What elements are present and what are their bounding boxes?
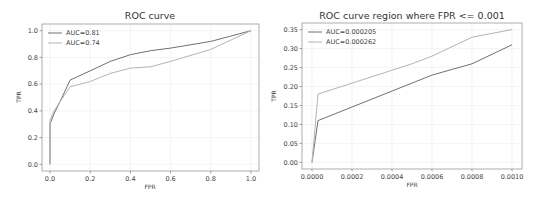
series-line [312,30,512,163]
y-tick-label: 0.20 [284,83,298,91]
x-tick-label: 0.6 [165,175,175,183]
y-tick-label: 0.00 [284,159,298,167]
y-tick-label: 0.05 [284,140,298,148]
legend-label: AUC=0.000262 [326,38,376,46]
y-tick-label: 0.25 [284,64,298,72]
x-axis-ticks: 0.00000.00020.00040.00060.00080.0010 [301,169,524,181]
y-tick-label: 0.30 [284,45,298,53]
x-tick-label: 0.0010 [501,173,524,181]
legend: AUC=0.000205AUC=0.000262 [308,28,376,46]
y-tick-label: 0.35 [284,26,298,34]
y-tick-label: 1.0 [28,27,38,35]
legend: AUC=0.81AUC=0.74 [48,29,100,47]
x-axis-ticks: 0.00.20.40.60.81.0 [45,171,256,183]
series-line [312,45,512,163]
x-tick-label: 0.0 [45,175,55,183]
x-tick-label: 0.4 [125,175,135,183]
x-tick-label: 0.2 [85,175,95,183]
chart-title: ROC curve [125,10,176,21]
y-tick-label: 0.8 [28,54,38,62]
legend-label: AUC=0.81 [66,29,100,37]
y-tick-label: 0.0 [28,161,38,169]
y-axis-ticks: 0.000.050.100.150.200.250.300.35 [284,26,302,167]
y-axis-ticks: 0.00.20.40.60.81.0 [28,27,42,169]
x-axis-label: FPR [406,181,417,188]
roc-curve-zoomed-chart: ROC curve region where FPR <= 0.001 0.00… [270,10,523,188]
y-tick-label: 0.4 [28,107,38,115]
x-tick-label: 1.0 [246,175,256,183]
roc-curve-chart: ROC curve 0.00.20.40.60.81.0 0.00.20.40.… [15,10,259,190]
chart-title: ROC curve region where FPR <= 0.001 [319,10,505,21]
y-tick-label: 0.2 [28,134,38,142]
x-tick-label: 0.8 [206,175,216,183]
series-lines [50,31,251,165]
x-tick-label: 0.0002 [341,173,364,181]
y-tick-label: 0.15 [284,102,298,110]
figure: ROC curve 0.00.20.40.60.81.0 0.00.20.40.… [0,0,540,199]
x-tick-label: 0.0006 [421,173,444,181]
legend-label: AUC=0.000205 [326,28,376,36]
x-tick-label: 0.0008 [461,173,484,181]
y-tick-label: 0.6 [28,80,38,88]
series-line [50,31,251,165]
y-axis-label: TPR [15,91,22,103]
y-tick-label: 0.10 [284,121,298,129]
legend-label: AUC=0.74 [66,39,100,47]
y-axis-label: TPR [270,90,277,102]
x-axis-label: FPR [144,183,155,190]
x-tick-label: 0.0004 [381,173,404,181]
x-tick-label: 0.0000 [301,173,324,181]
series-lines [312,30,512,163]
